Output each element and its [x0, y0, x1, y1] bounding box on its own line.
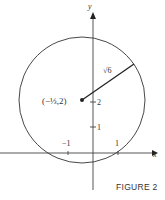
center-label: (−⅓,2): [42, 96, 67, 106]
x-axis-label: x: [152, 150, 157, 159]
y-tick-label-1: 1: [97, 123, 101, 132]
y-axis-label: y: [87, 2, 92, 11]
y-axis-arrow-icon: [90, 12, 96, 19]
radius-label: √6: [103, 66, 111, 75]
x-tick-label-1: 1: [115, 139, 119, 148]
x-tick-label-neg1: −1: [62, 139, 71, 148]
y-tick-label-2: 2: [97, 98, 101, 107]
center-point: [80, 98, 84, 102]
figure-caption: FIGURE 2: [116, 182, 158, 192]
figure-canvas: x y −1 1 1 2 √6 (−⅓,2) FIGURE 2: [0, 0, 165, 200]
